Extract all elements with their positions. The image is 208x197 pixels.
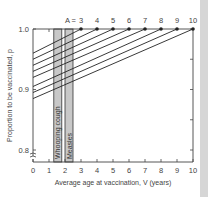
- x-axis-title: Average age at vaccination, V (years): [55, 179, 172, 187]
- series-endpoint-A9: [175, 27, 179, 31]
- x-tick-label: 8: [159, 166, 163, 175]
- series-label: 4: [95, 16, 99, 25]
- series-endpoint-A10: [191, 27, 195, 31]
- x-tick-label: 10: [189, 166, 197, 175]
- series-endpoint-A6: [127, 27, 131, 31]
- series-line-A7: [33, 29, 145, 77]
- series-endpoint-A5: [111, 27, 115, 31]
- x-tick-label: 9: [175, 166, 179, 175]
- x-tick-label: 5: [111, 166, 115, 175]
- y-tick-label: 1.0: [19, 25, 29, 34]
- series-endpoint-A3: [79, 27, 83, 31]
- series-label: 3: [79, 16, 83, 25]
- x-tick-label: 2: [63, 166, 67, 175]
- series-label: 8: [159, 16, 163, 25]
- series-label-prefix: A =: [65, 16, 77, 25]
- x-tick-label: 6: [127, 166, 131, 175]
- x-tick-label: 1: [47, 166, 51, 175]
- y-axis-title: Proportion to be vaccinated, p: [6, 49, 14, 142]
- band-label: Measles: [66, 132, 73, 159]
- labels-layer: 0123456789100.80.91.0345678910A =: [19, 16, 198, 175]
- series-label: 7: [143, 16, 147, 25]
- series-label: 10: [189, 16, 197, 25]
- series-label: 6: [127, 16, 131, 25]
- series-endpoint-A7: [143, 27, 147, 31]
- x-tick-label: 7: [143, 166, 147, 175]
- y-tick-label: 0.8: [19, 146, 29, 155]
- band-label: Whooping cough: [54, 106, 62, 159]
- y-tick-label: 0.9: [19, 85, 29, 94]
- x-tick-label: 0: [31, 166, 35, 175]
- series-endpoint-A4: [95, 27, 99, 31]
- chart: Whooping coughMeasles 0123456789100.80.9…: [0, 0, 208, 197]
- series-line-A8: [33, 29, 161, 86]
- series-label: 9: [175, 16, 179, 25]
- x-tick-label: 4: [95, 166, 99, 175]
- series-label: 5: [111, 16, 115, 25]
- x-tick-label: 3: [79, 166, 83, 175]
- series-endpoint-A8: [159, 27, 163, 31]
